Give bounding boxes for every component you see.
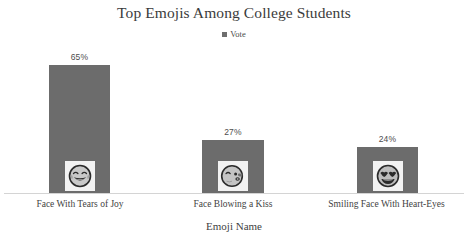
bar-chart: Top Emojis Among College Students Vote 6… xyxy=(0,0,468,248)
bar-rect[interactable] xyxy=(202,140,264,193)
plot-area: 65% 27% xyxy=(0,40,468,194)
legend-swatch-vote xyxy=(222,32,227,37)
bar-value-label: 65% xyxy=(71,52,89,62)
bar-group-face-blowing-a-kiss[interactable]: 27% xyxy=(202,127,264,193)
chart-title: Top Emojis Among College Students xyxy=(0,4,468,22)
x-axis-label-face-with-tears-of-joy: Face With Tears of Joy xyxy=(0,199,160,209)
x-axis-label-smiling-face-with-heart-eyes: Smiling Face With Heart-Eyes xyxy=(305,199,468,209)
bar-value-label: 24% xyxy=(379,134,397,144)
bar-rect[interactable] xyxy=(357,147,418,193)
x-axis-title: Emoji Name xyxy=(0,220,468,232)
chart-legend: Vote xyxy=(0,29,468,39)
face-with-tears-of-joy-icon xyxy=(65,161,95,191)
face-blowing-a-kiss-icon xyxy=(218,161,248,191)
bar-group-smiling-face-with-heart-eyes[interactable]: 24% xyxy=(357,134,418,193)
bar-value-label: 27% xyxy=(224,127,242,137)
x-axis-line xyxy=(4,193,464,194)
bar-group-face-with-tears-of-joy[interactable]: 65% xyxy=(49,52,110,193)
smiling-face-with-heart-eyes-icon xyxy=(373,161,403,191)
x-axis-category-labels: Face With Tears of Joy Face Blowing a Ki… xyxy=(0,199,468,215)
bar-rect[interactable] xyxy=(49,65,110,193)
x-axis-label-face-blowing-a-kiss: Face Blowing a Kiss xyxy=(153,199,313,209)
legend-label-vote: Vote xyxy=(230,29,245,39)
